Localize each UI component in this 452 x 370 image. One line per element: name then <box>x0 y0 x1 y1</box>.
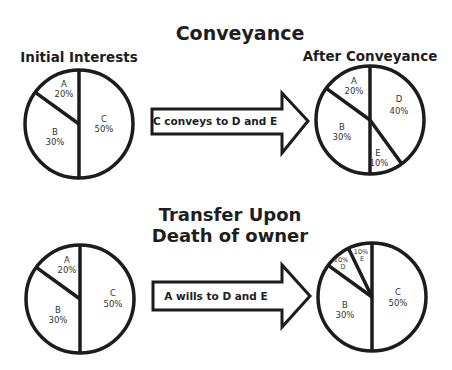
diagram-canvas: C conveys to D and E A wills to D and E … <box>0 0 452 370</box>
pie2-pct-a: 20% <box>345 86 364 96</box>
pie3-pct-b: 30% <box>49 315 68 325</box>
pie2-pct-e: 10% <box>370 158 389 168</box>
pie2-label-b: B <box>339 122 345 132</box>
pie2-label-a: A <box>351 76 357 86</box>
pie1-pct-c: 50% <box>95 124 114 134</box>
pie3-label-b: B <box>55 305 61 315</box>
pie3-pct-a: 20% <box>58 265 77 275</box>
pie1-label-c: C <box>101 114 107 124</box>
pie2-pct-b: 30% <box>333 132 352 142</box>
arrow-conveyance-label: C conveys to D and E <box>153 115 277 127</box>
pie-initial-top <box>25 70 133 178</box>
pie1-label-b: B <box>52 127 58 137</box>
pie2-pct-d: 40% <box>390 106 409 116</box>
pie1-pct-a: 20% <box>55 89 74 99</box>
arrow-will-label: A wills to D and E <box>164 290 267 302</box>
pie4-label-e: E <box>360 255 364 263</box>
pie4-label-c: C <box>395 287 401 297</box>
pie3-label-c: C <box>110 288 116 298</box>
pie2-label-e: E <box>375 148 380 158</box>
pie1-pct-b: 30% <box>46 137 65 147</box>
pie4-pct-b: 30% <box>336 310 355 320</box>
pie4-label-d: D <box>340 263 345 271</box>
pie1-label-a: A <box>61 79 67 89</box>
pie3-label-a: A <box>64 255 70 265</box>
pie4-pct-c: 50% <box>389 298 408 308</box>
pie2-label-d: D <box>396 94 403 104</box>
pie4-label-b: B <box>342 300 348 310</box>
pie3-pct-c: 50% <box>104 299 123 309</box>
